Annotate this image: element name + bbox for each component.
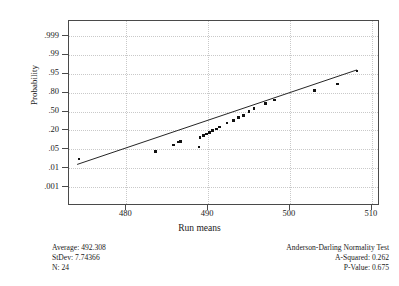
plot-area xyxy=(68,20,379,205)
data-point xyxy=(211,129,214,132)
stdev-value: StDev: 7.74366 xyxy=(52,253,106,263)
anderson-darling-test: Anderson-Darling Normality Test A-Square… xyxy=(286,243,389,274)
data-point xyxy=(199,136,202,139)
normal-probability-plot: Probability .999.99.95.80.50.20.05.01.00… xyxy=(0,0,399,286)
data-point xyxy=(232,119,235,122)
data-point xyxy=(215,128,218,131)
sample-size-value: N: 24 xyxy=(52,263,106,273)
data-point xyxy=(248,110,251,113)
y-tick-label: .001 xyxy=(44,182,59,191)
test-title: Anderson-Darling Normality Test xyxy=(286,243,389,253)
data-point xyxy=(253,107,256,110)
y-tick-label: .95 xyxy=(48,68,59,77)
y-tick-label: .50 xyxy=(48,106,59,115)
data-point xyxy=(78,158,81,161)
a-squared-value: A-Squared: 0.262 xyxy=(286,253,389,263)
data-point xyxy=(202,134,205,137)
y-tick-label: .999 xyxy=(44,31,59,40)
y-tick-label: .05 xyxy=(48,144,59,153)
x-axis-title: Run means xyxy=(0,223,399,233)
data-point xyxy=(264,102,267,105)
data-point xyxy=(242,114,245,117)
y-tick-label: .80 xyxy=(48,87,59,96)
summary-statistics: Average: 492.308 StDev: 7.74366 N: 24 xyxy=(52,243,106,274)
x-tick-label: 510 xyxy=(351,209,391,218)
data-point xyxy=(179,140,182,143)
x-tick-label: 500 xyxy=(269,209,309,218)
data-point xyxy=(226,122,229,125)
y-tick-label: .99 xyxy=(48,49,59,58)
normal-fit-line xyxy=(69,21,378,204)
data-point xyxy=(172,144,175,147)
data-point xyxy=(336,83,339,86)
data-point xyxy=(154,150,157,153)
average-value: Average: 492.308 xyxy=(52,243,106,253)
data-point xyxy=(205,133,208,136)
data-point xyxy=(218,126,221,129)
x-tick-label: 490 xyxy=(187,209,227,218)
data-point xyxy=(198,146,201,149)
y-tick-label: .20 xyxy=(48,125,59,134)
y-tick-label: .01 xyxy=(48,163,59,172)
data-point xyxy=(237,116,240,119)
y-axis-title: Probability xyxy=(29,45,39,125)
data-point xyxy=(356,70,359,73)
p-value: P-Value: 0.675 xyxy=(286,263,389,273)
plot-canvas xyxy=(69,21,378,204)
x-tick-label: 480 xyxy=(105,209,145,218)
data-point xyxy=(273,99,276,102)
data-point xyxy=(313,89,316,92)
